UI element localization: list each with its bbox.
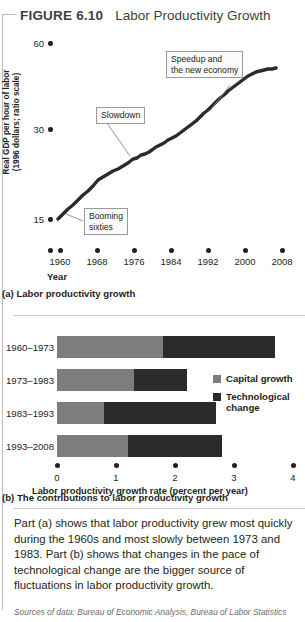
- legend-label-tech-line2: change: [226, 402, 260, 413]
- callout-speedup: Speedup and the new economy: [166, 51, 243, 78]
- x-tick-dot-1968: [95, 248, 100, 253]
- bar-segment-tech-1960-1973[interactable]: [163, 336, 275, 358]
- bx-tick-3: 3: [224, 472, 244, 483]
- callout-speedup-line1: Speedup and: [171, 54, 238, 65]
- sources-note: Sources of data: Bureau of Economic Anal…: [14, 607, 305, 617]
- callout-booming-line1: Booming: [89, 211, 123, 222]
- callout-slowdown: Slowdown: [96, 107, 145, 124]
- figure-number: FIGURE 6.10: [20, 8, 103, 23]
- x-axis-label: Year: [47, 271, 67, 282]
- x-tick-dot-1992: [206, 248, 211, 253]
- bar-segment-capital-1973-1983[interactable]: [57, 369, 134, 391]
- x-tick-2000: 2000: [228, 256, 262, 267]
- bx-tick-2: 2: [165, 472, 185, 483]
- callout-slowdown-text: Slowdown: [101, 110, 140, 120]
- callout-booming-line2: sixties: [89, 222, 123, 233]
- bx-tick-4: 4: [283, 472, 303, 483]
- legend-item-capital-growth[interactable]: Capital growth: [213, 373, 293, 384]
- bar-chart-legend: Capital growth Technological change: [213, 373, 293, 420]
- bar-row-label-1960-1973: 1960–1973: [6, 342, 54, 353]
- bx-tick-dot-1: [114, 463, 119, 468]
- callout-speedup-line2: the new economy: [171, 65, 238, 76]
- panel-divider-bottom: [14, 508, 305, 509]
- x-tick-1968: 1968: [80, 256, 114, 267]
- figure-header: FIGURE 6.10 Labor Productivity Growth: [20, 4, 305, 26]
- bar-segment-capital-1983-1993[interactable]: [57, 402, 104, 424]
- panel-divider-top: [14, 315, 305, 316]
- bar-row-label-1983-1993: 1983–1993: [6, 408, 54, 419]
- explanation-text: Part (a) shows that labor productivity g…: [14, 516, 300, 594]
- bar-segment-tech-1983-1993[interactable]: [104, 402, 216, 424]
- top-frame-rule: [2, 14, 16, 15]
- panel-b-caption: (b) The contributions to labor productiv…: [2, 492, 228, 503]
- x-tick-1960: 1960: [43, 256, 77, 267]
- panel-a-caption: (a) Labor productivity growth: [2, 288, 135, 299]
- x-tick-dot-1976: [132, 248, 137, 253]
- bar-segment-tech-1973-1983[interactable]: [134, 369, 187, 391]
- legend-label-tech-line1: Technological: [226, 391, 290, 402]
- figure-page: FIGURE 6.10 Labor Productivity Growth Re…: [0, 0, 305, 622]
- bar-segment-tech-1993-2008[interactable]: [128, 435, 222, 457]
- panel-a-line-chart: Real GDP per hour of labor (1996 dollars…: [0, 28, 305, 290]
- x-tick-2008: 2008: [265, 256, 299, 267]
- x-tick-1984: 1984: [154, 256, 188, 267]
- x-tick-1976: 1976: [117, 256, 151, 267]
- bar-row-label-1993-2008: 1993–2008: [6, 441, 54, 452]
- x-tick-dot-1960: [58, 248, 63, 253]
- bar-segment-capital-1993-2008[interactable]: [57, 435, 128, 457]
- bx-tick-1: 1: [106, 472, 126, 483]
- x-tick-1992: 1992: [191, 256, 225, 267]
- bx-tick-dot-4: [291, 463, 296, 468]
- bx-tick-dot-0: [55, 463, 60, 468]
- legend-label-capital: Capital growth: [226, 373, 293, 384]
- callout-booming-sixties: Booming sixties: [84, 208, 128, 235]
- productivity-line: [0, 28, 305, 243]
- legend-swatch-capital-icon: [213, 375, 221, 383]
- bar-row-label-1973-1983: 1973–1983: [6, 375, 54, 386]
- figure-title: Labor Productivity Growth: [115, 8, 270, 23]
- bx-tick-0: 0: [47, 472, 67, 483]
- x-tick-dot-2008: [280, 248, 285, 253]
- bx-tick-dot-2: [173, 463, 178, 468]
- x-tick-dot-1984: [169, 248, 174, 253]
- x-tick-dot-origin: [48, 248, 53, 253]
- legend-swatch-tech-icon: [213, 393, 221, 401]
- bx-tick-dot-3: [232, 463, 237, 468]
- x-tick-dot-2000: [243, 248, 248, 253]
- legend-item-technological-change[interactable]: Technological change: [213, 391, 293, 413]
- bar-segment-capital-1960-1973[interactable]: [57, 336, 163, 358]
- panel-b-bar-chart: 1960–1973 1973–1983 1983–1993 1993–2008 …: [0, 318, 305, 508]
